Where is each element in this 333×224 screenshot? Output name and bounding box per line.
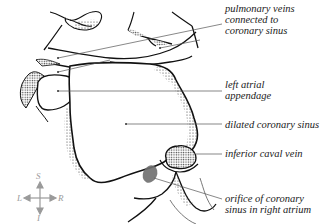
label-pulmonary-veins: pulmonary veins connected to coronary si… (225, 3, 295, 36)
anatomy-diagram: pulmonary veins connected to coronary si… (0, 0, 333, 224)
compass-right: R (58, 193, 64, 203)
compass-superior: S (36, 171, 41, 181)
compass-inferior: I (37, 213, 40, 223)
label-inferior-caval-vein: inferior caval vein (225, 148, 303, 159)
orientation-compass-icon (24, 182, 56, 214)
compass-left: L (17, 193, 22, 203)
label-left-atrial-appendage: left atrial appendage (225, 79, 271, 101)
inferior-caval-vein-shape (166, 146, 196, 169)
upper-vessels (50, 11, 192, 30)
label-orifice-coronary-sinus: orifice of coronary sinus in right atriu… (225, 193, 311, 215)
label-dilated-coronary-sinus: dilated coronary sinus (225, 119, 319, 130)
